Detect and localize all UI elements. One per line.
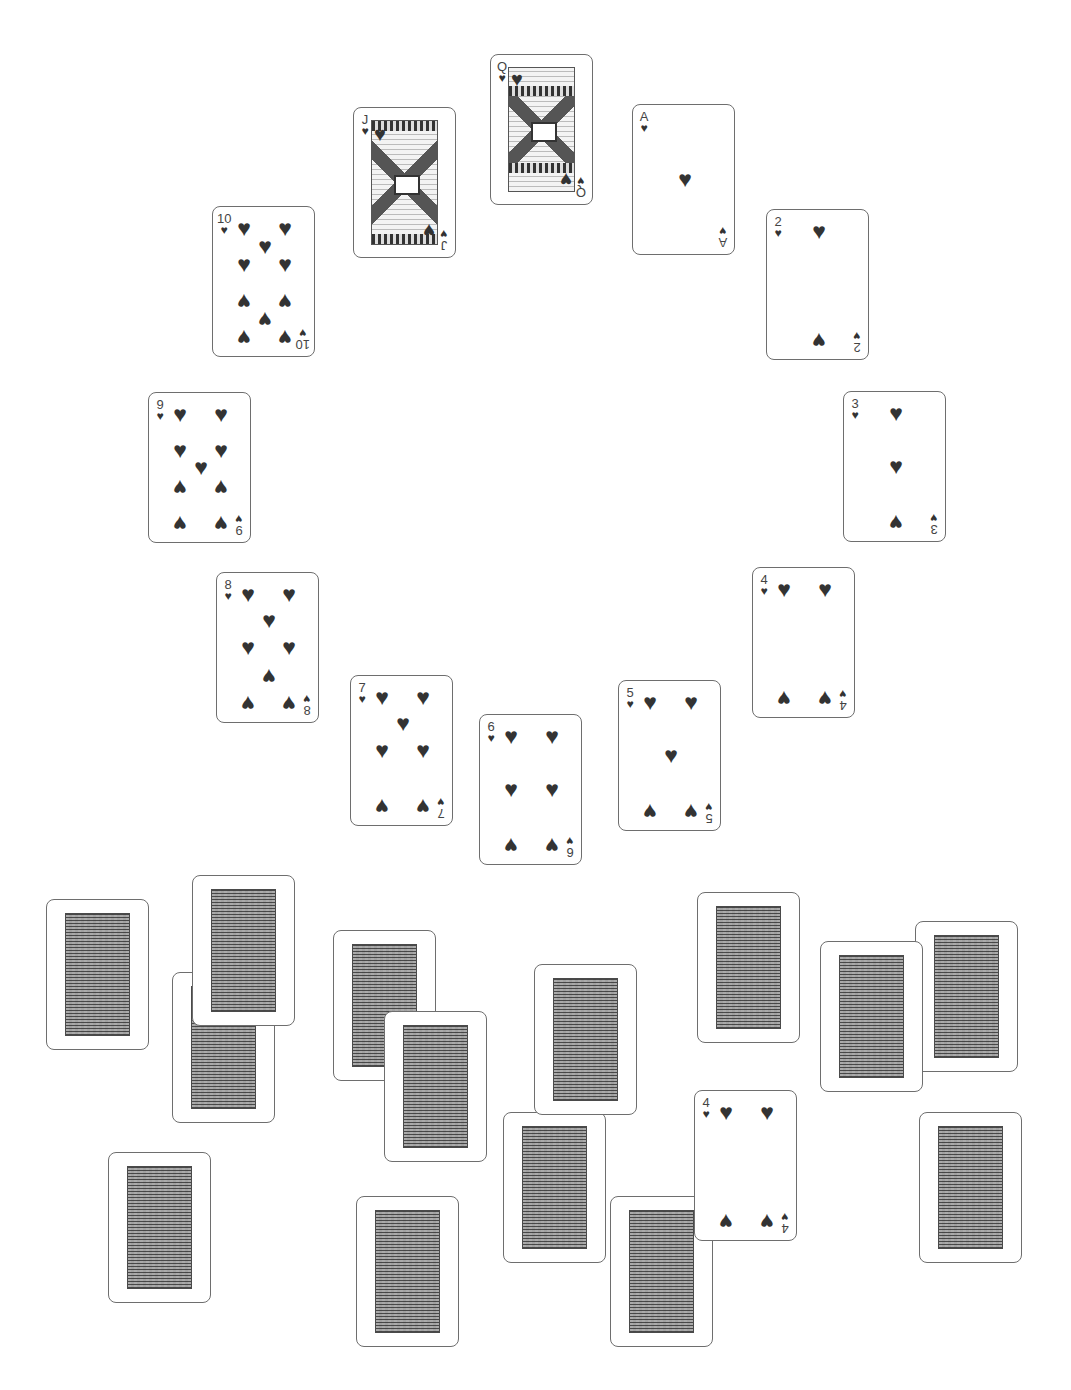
face-down-card[interactable] bbox=[356, 1196, 459, 1347]
heart-icon: ♥ bbox=[637, 123, 651, 134]
heart-icon: ♥ bbox=[927, 512, 941, 523]
card-index-bottom: J♥ bbox=[437, 228, 451, 252]
heart-pip-icon: ♥ bbox=[277, 583, 301, 607]
heart-pip-icon: ♥ bbox=[257, 609, 281, 633]
card-index-bottom: 2♥ bbox=[850, 330, 864, 354]
heart-pip-icon: ♥ bbox=[499, 725, 523, 749]
face-down-card[interactable] bbox=[919, 1112, 1022, 1263]
card-back-pattern bbox=[65, 913, 130, 1036]
card-index-top: 8♥ bbox=[221, 578, 235, 602]
face-down-card[interactable] bbox=[820, 941, 923, 1092]
heart-pip-icon: ♥ bbox=[391, 712, 415, 736]
card-back-pattern bbox=[716, 906, 781, 1029]
card-back-pattern bbox=[553, 978, 618, 1101]
card-back-pattern bbox=[211, 889, 276, 1012]
card-2-of-hearts[interactable]: 2♥ ♥ ♥ 2♥ bbox=[766, 209, 869, 360]
card-ace-of-hearts[interactable]: A♥ ♥ A♥ bbox=[632, 104, 735, 255]
heart-icon: ♥ bbox=[511, 69, 523, 89]
jack-face-art: ♥ ♥ bbox=[371, 120, 438, 245]
card-index-bottom: 10♥ bbox=[296, 327, 310, 351]
card-index-bottom: Q♥ bbox=[574, 175, 588, 199]
heart-icon: ♥ bbox=[848, 410, 862, 421]
heart-icon: ♥ bbox=[757, 586, 771, 597]
heart-pip-icon: ♥ bbox=[411, 739, 435, 763]
face-down-card[interactable] bbox=[108, 1152, 211, 1303]
card-4-of-hearts-pile[interactable]: 4♥ ♥ ♥ ♥ ♥ 4♥ bbox=[694, 1090, 797, 1241]
card-index-top: 2♥ bbox=[771, 215, 785, 239]
heart-icon: ♥ bbox=[232, 513, 246, 524]
heart-pip-icon: ♥ bbox=[277, 636, 301, 660]
heart-pip-icon: ♥ bbox=[370, 794, 394, 818]
heart-pip-icon: ♥ bbox=[659, 744, 683, 768]
card-index-top: J♥ bbox=[358, 113, 372, 137]
face-down-card[interactable] bbox=[192, 875, 295, 1026]
heart-icon: ♥ bbox=[771, 228, 785, 239]
heart-pip-icon: ♥ bbox=[638, 691, 662, 715]
card-4-of-hearts[interactable]: 4♥ ♥ ♥ ♥ ♥ 4♥ bbox=[752, 567, 855, 718]
heart-icon: ♥ bbox=[836, 688, 850, 699]
heart-icon: ♥ bbox=[153, 411, 167, 422]
heart-pip-icon: ♥ bbox=[168, 511, 192, 535]
heart-pip-icon: ♥ bbox=[232, 325, 256, 349]
card-index-top: 7♥ bbox=[355, 681, 369, 705]
card-back-pattern bbox=[127, 1166, 192, 1289]
face-down-card[interactable] bbox=[46, 899, 149, 1050]
card-back-pattern bbox=[522, 1126, 587, 1249]
card-10-of-hearts[interactable]: 10♥ ♥ ♥ ♥ ♥ ♥ ♥ ♥ ♥ ♥ ♥ 10♥ bbox=[212, 206, 315, 357]
card-6-of-hearts[interactable]: 6♥ ♥ ♥ ♥ ♥ ♥ ♥ 6♥ bbox=[479, 714, 582, 865]
heart-icon: ♥ bbox=[699, 1109, 713, 1120]
face-down-card[interactable] bbox=[503, 1112, 606, 1263]
heart-pip-icon: ♥ bbox=[499, 778, 523, 802]
heart-pip-icon: ♥ bbox=[884, 455, 908, 479]
heart-icon: ♥ bbox=[623, 699, 637, 710]
card-jack-of-hearts[interactable]: ♥ ♥ J♥ J♥ bbox=[353, 107, 456, 258]
card-index-top: 10♥ bbox=[217, 212, 231, 236]
heart-pip-icon: ♥ bbox=[679, 799, 703, 823]
card-index-bottom: 9♥ bbox=[232, 513, 246, 537]
heart-pip-icon: ♥ bbox=[813, 578, 837, 602]
heart-pip-icon: ♥ bbox=[884, 510, 908, 534]
heart-pip-icon: ♥ bbox=[411, 794, 435, 818]
heart-icon: ♥ bbox=[702, 801, 716, 812]
card-back-pattern bbox=[403, 1025, 468, 1148]
card-8-of-hearts[interactable]: 8♥ ♥ ♥ ♥ ♥ ♥ ♥ ♥ ♥ 8♥ bbox=[216, 572, 319, 723]
heart-pip-icon: ♥ bbox=[755, 1209, 779, 1233]
card-queen-of-hearts[interactable]: ♥ ♥ Q♥ Q♥ bbox=[490, 54, 593, 205]
heart-pip-icon: ♥ bbox=[209, 475, 233, 499]
heart-icon: ♥ bbox=[850, 330, 864, 341]
heart-pip-icon: ♥ bbox=[257, 664, 281, 688]
heart-pip-icon: ♥ bbox=[813, 686, 837, 710]
face-down-card[interactable] bbox=[384, 1011, 487, 1162]
heart-icon: ♥ bbox=[778, 1211, 792, 1222]
card-back-pattern bbox=[934, 935, 999, 1058]
face-down-card[interactable] bbox=[534, 964, 637, 1115]
heart-pip-icon: ♥ bbox=[679, 691, 703, 715]
queen-face-art: ♥ ♥ bbox=[508, 67, 575, 192]
face-down-card[interactable] bbox=[915, 921, 1018, 1072]
heart-pip-icon: ♥ bbox=[370, 739, 394, 763]
card-index-bottom: 6♥ bbox=[563, 835, 577, 859]
heart-pip-icon: ♥ bbox=[807, 220, 831, 244]
card-index-top: 5♥ bbox=[623, 686, 637, 710]
card-index-bottom: 3♥ bbox=[927, 512, 941, 536]
heart-icon: ♥ bbox=[358, 126, 372, 137]
card-7-of-hearts[interactable]: 7♥ ♥ ♥ ♥ ♥ ♥ ♥ ♥ 7♥ bbox=[350, 675, 453, 826]
heart-pip-icon: ♥ bbox=[772, 578, 796, 602]
heart-pip-icon: ♥ bbox=[209, 511, 233, 535]
heart-icon: ♥ bbox=[434, 796, 448, 807]
heart-pip-icon: ♥ bbox=[168, 475, 192, 499]
card-9-of-hearts[interactable]: 9♥ ♥ ♥ ♥ ♥ ♥ ♥ ♥ ♥ ♥ 9♥ bbox=[148, 392, 251, 543]
heart-icon: ♥ bbox=[484, 733, 498, 744]
card-3-of-hearts[interactable]: 3♥ ♥ ♥ ♥ 3♥ bbox=[843, 391, 946, 542]
heart-pip-icon: ♥ bbox=[540, 725, 564, 749]
heart-icon: ♥ bbox=[423, 221, 435, 241]
card-index-top: 4♥ bbox=[699, 1096, 713, 1120]
heart-pip-icon: ♥ bbox=[273, 325, 297, 349]
face-down-card[interactable] bbox=[697, 892, 800, 1043]
card-index-bottom: 4♥ bbox=[836, 688, 850, 712]
heart-pip-icon: ♥ bbox=[499, 833, 523, 857]
card-index-top: 4♥ bbox=[757, 573, 771, 597]
heart-pip-icon: ♥ bbox=[714, 1101, 738, 1125]
heart-pip-icon: ♥ bbox=[807, 328, 831, 352]
card-5-of-hearts[interactable]: 5♥ ♥ ♥ ♥ ♥ ♥ 5♥ bbox=[618, 680, 721, 831]
